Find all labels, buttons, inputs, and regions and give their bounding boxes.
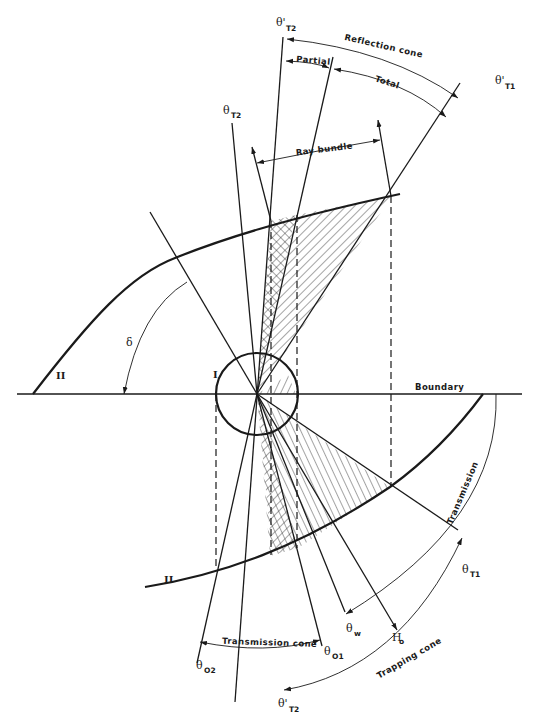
svg-text:θ': θ' bbox=[276, 16, 286, 29]
angle-theta-T2-upper: θ T2 bbox=[223, 104, 241, 120]
svg-text:θ: θ bbox=[223, 104, 230, 117]
label-trapping-cone: Trapping cone bbox=[375, 635, 443, 680]
label-boundary: Boundary bbox=[415, 382, 464, 392]
dimension-arcs bbox=[124, 39, 496, 690]
svg-text:o: o bbox=[399, 637, 404, 646]
label-partial: Partial bbox=[296, 54, 331, 67]
svg-text:O2: O2 bbox=[204, 666, 216, 675]
svg-text:T1: T1 bbox=[470, 570, 480, 579]
label-total: Total bbox=[374, 73, 401, 90]
angle-theta-T1: θ T1 bbox=[462, 563, 480, 579]
angle-theta-O2: θ O2 bbox=[196, 659, 216, 675]
angle-theta-O1: θ O1 bbox=[324, 645, 344, 661]
label-transmission: Transmission bbox=[445, 460, 481, 526]
svg-text:θ': θ' bbox=[278, 697, 288, 710]
angle-H-o: H o bbox=[392, 631, 404, 646]
angle-theta-w: θ w bbox=[346, 622, 361, 638]
svg-text:θ: θ bbox=[324, 645, 331, 658]
label-region-I: I bbox=[213, 369, 218, 380]
svg-text:θ: θ bbox=[462, 563, 469, 576]
label-delta: δ bbox=[126, 336, 133, 349]
ray-lines bbox=[150, 37, 460, 702]
svg-text:θ: θ bbox=[196, 659, 203, 672]
svg-text:T2: T2 bbox=[289, 705, 299, 714]
svg-text:T2: T2 bbox=[286, 24, 296, 33]
svg-text:O1: O1 bbox=[332, 652, 344, 661]
label-reflection-cone: Reflection cone bbox=[343, 32, 423, 60]
angle-theta-T2-prime-bottom: θ' T2 bbox=[278, 697, 299, 714]
lower-hatched-region bbox=[257, 394, 390, 556]
label-ray-bundle: Ray bundle bbox=[295, 140, 353, 157]
svg-text:θ: θ bbox=[346, 622, 353, 635]
label-region-II-lower: II bbox=[164, 574, 174, 585]
svg-text:T1: T1 bbox=[505, 82, 515, 91]
angle-theta-T2-prime-top: θ' T2 bbox=[276, 16, 296, 33]
svg-text:θ': θ' bbox=[495, 74, 505, 87]
angle-theta-T1-prime: θ' T1 bbox=[495, 74, 515, 91]
svg-text:w: w bbox=[354, 629, 361, 638]
label-region-II-upper: II bbox=[56, 370, 66, 381]
svg-text:T2: T2 bbox=[231, 111, 241, 120]
upper-hatched-region bbox=[257, 196, 392, 394]
optical-cone-diagram: Reflection cone Partial Total Ray bundle… bbox=[0, 0, 545, 723]
